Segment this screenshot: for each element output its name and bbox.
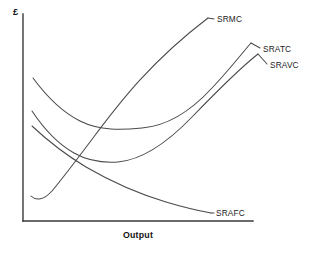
leader-line-srmc	[208, 18, 214, 19]
curve-srafc	[32, 126, 211, 213]
curve-label-srafc: SRAFC	[216, 209, 245, 217]
cost-curves-figure: £ Output SRMC SRATC SRAVC SRAFC	[0, 0, 319, 257]
leader-line-sratc	[251, 43, 260, 48]
curve-sratc	[33, 43, 251, 129]
y-axis-label: £	[13, 8, 18, 17]
curve-sravc	[32, 54, 258, 162]
leader-line-sravc	[258, 54, 267, 64]
curve-label-sravc: SRAVC	[270, 61, 299, 69]
curve-label-srmc: SRMC	[217, 15, 242, 23]
curve-srmc	[31, 18, 208, 199]
x-axis-label: Output	[23, 231, 253, 240]
chart-canvas	[0, 0, 319, 257]
curve-label-sratc: SRATC	[263, 45, 291, 53]
